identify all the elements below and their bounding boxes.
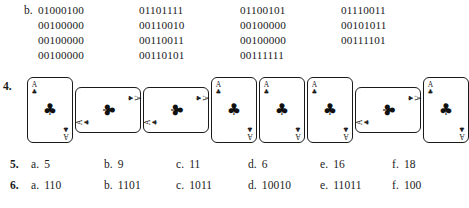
answer-item: b.9 (104, 158, 124, 170)
answer-row-number: 5. (10, 158, 19, 170)
playing-card[interactable]: A♣A♣♣ (75, 87, 141, 133)
binary-value: 00111111 (240, 49, 284, 61)
playing-card[interactable]: A♣A♣♣ (423, 77, 469, 143)
answer-value: 9 (118, 158, 124, 170)
answer-item: e.16 (320, 158, 345, 170)
binary-value: 00100000 (240, 34, 286, 46)
card-rank: A (75, 119, 83, 125)
card-rank: A (355, 119, 363, 125)
answer-item: c.1011 (176, 179, 212, 191)
binary-value: 00110010 (139, 19, 185, 31)
club-suit-icon: ♣ (424, 78, 468, 142)
playing-card[interactable]: A♣A♣♣ (211, 77, 257, 143)
answer-item: c.11 (176, 158, 200, 170)
answer-item: f.18 (392, 158, 416, 170)
club-suit-icon: ♣ (86, 78, 130, 142)
answer-value: 1101 (118, 179, 141, 191)
card-exercise-label: 4. (3, 80, 12, 92)
answer-row-6: 6. a.110 b.1101 c.1011 d.10010 e.11011 f… (0, 179, 465, 201)
answer-item: f.100 (392, 179, 421, 191)
answer-letter: c. (176, 158, 184, 170)
answer-letter: b. (104, 158, 113, 170)
answer-value: 11011 (333, 179, 361, 191)
binary-value: 00111101 (341, 34, 386, 46)
card-rank: A (143, 119, 151, 125)
answer-letter: c. (176, 179, 184, 191)
answer-letter: d. (248, 158, 257, 170)
answer-item: d.10010 (248, 179, 291, 191)
answer-value: 100 (404, 179, 422, 191)
answer-item: a.5 (31, 158, 50, 170)
answer-value: 10010 (262, 179, 291, 191)
club-suit-icon: ♣ (212, 78, 256, 142)
playing-card[interactable]: A♣A♣♣ (259, 77, 305, 143)
binary-value: 01100101 (240, 4, 286, 16)
answer-item: b.1101 (104, 179, 141, 191)
answer-item: e.11011 (320, 179, 362, 191)
club-suit-icon: ♣ (366, 78, 410, 142)
answer-letter: e. (320, 179, 328, 191)
answer-value: 6 (262, 158, 268, 170)
playing-card[interactable]: A♣A♣♣ (355, 87, 421, 133)
answer-key: 5. a.5 b.9 c.11 d.6 e.16 f.18 6. a.110 b… (0, 156, 465, 206)
answer-value: 11 (189, 158, 200, 170)
playing-card[interactable]: A♣A♣♣ (27, 77, 73, 143)
binary-value: 01110011 (341, 4, 386, 16)
binary-value: 00100000 (38, 19, 84, 31)
answer-letter: a. (31, 179, 39, 191)
binary-exercise-label: b. (24, 4, 33, 16)
card-rank: A (133, 95, 141, 101)
binary-row: 00100000 00110010 00100000 00101011 (38, 19, 458, 34)
answer-letter: f. (392, 158, 399, 170)
club-suit-icon: ♣ (308, 78, 352, 142)
playing-card[interactable]: A♣A♣♣ (307, 77, 353, 143)
answer-value: 18 (404, 158, 416, 170)
binary-value: 00100000 (240, 19, 286, 31)
card-rank: A (413, 95, 421, 101)
playing-card[interactable]: A♣A♣♣ (143, 87, 209, 133)
answer-row-number: 6. (10, 179, 19, 191)
answer-item: a.110 (31, 179, 61, 191)
club-suit-icon: ♣ (28, 78, 72, 142)
club-suit-icon: ♣ (260, 78, 304, 142)
binary-row: 00100000 00110101 00111111 (38, 49, 458, 64)
binary-value: 00101011 (341, 19, 387, 31)
answer-item: d.6 (248, 158, 268, 170)
binary-value: 00110011 (139, 34, 184, 46)
answer-letter: f. (392, 179, 399, 191)
answer-letter: b. (104, 179, 113, 191)
card-sequence: 4. A♣A♣♣A♣A♣♣A♣A♣♣A♣A♣♣A♣A♣♣A♣A♣♣A♣A♣♣A♣… (0, 74, 465, 154)
answer-letter: e. (320, 158, 328, 170)
binary-exercise-block: b. 01000100 01101111 01100101 01110011 0… (0, 4, 465, 70)
binary-value: 00110101 (139, 49, 185, 61)
answer-value: 110 (44, 179, 61, 191)
answer-letter: d. (248, 179, 257, 191)
binary-value: 00100000 (38, 34, 84, 46)
binary-value: 01101111 (139, 4, 183, 16)
answer-row-5: 5. a.5 b.9 c.11 d.6 e.16 f.18 (0, 158, 465, 180)
answer-letter: a. (31, 158, 39, 170)
binary-value: 01000100 (38, 4, 84, 16)
binary-row: 01000100 01101111 01100101 01110011 (38, 4, 458, 19)
club-suit-icon: ♣ (154, 78, 198, 142)
binary-value: 00100000 (38, 49, 84, 61)
card-rank: A (201, 95, 209, 101)
answer-value: 5 (44, 158, 50, 170)
answer-value: 16 (333, 158, 345, 170)
answer-value: 1011 (189, 179, 212, 191)
binary-row: 00100000 00110011 00100000 00111101 (38, 34, 458, 49)
